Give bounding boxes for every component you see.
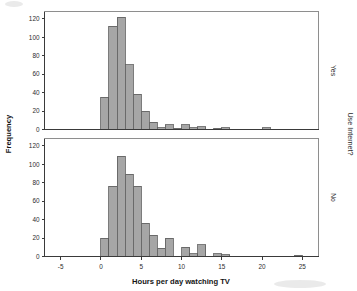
y-tick-label: 40 bbox=[32, 89, 40, 96]
y-tick-label: 80 bbox=[32, 52, 40, 59]
y-tick-label: 80 bbox=[32, 179, 40, 186]
histogram-bar bbox=[117, 17, 125, 129]
x-tick-label: 15 bbox=[218, 263, 226, 270]
histogram-bar bbox=[101, 97, 109, 129]
histogram-bar bbox=[182, 125, 190, 130]
y-tick-label: 40 bbox=[32, 216, 40, 223]
panel-yes: 020406080100120 Yes bbox=[29, 12, 337, 133]
y-axis-title: Frequency bbox=[4, 114, 13, 153]
y-tick-label: 0 bbox=[36, 126, 40, 133]
histogram-bar bbox=[125, 65, 133, 130]
y-tick-label: 0 bbox=[36, 253, 40, 260]
histogram-bar bbox=[109, 186, 117, 256]
histogram-bar bbox=[133, 94, 141, 129]
x-axis-title: Hours per day watching TV bbox=[132, 277, 231, 286]
x-tick-label: -5 bbox=[58, 263, 64, 270]
histogram-bar bbox=[117, 156, 125, 256]
x-tick-label: 25 bbox=[299, 263, 307, 270]
histogram-bar bbox=[149, 235, 157, 256]
histogram-bar bbox=[198, 245, 206, 257]
panel-label-no: No bbox=[330, 193, 337, 202]
histogram-figure: 020406080100120 Yes 020406080100120 -505… bbox=[0, 0, 357, 291]
histogram-bar bbox=[165, 238, 173, 256]
histogram-bar bbox=[125, 174, 133, 256]
panel-no-frame bbox=[45, 139, 319, 257]
histogram-bar bbox=[149, 122, 157, 129]
y-tick-label: 120 bbox=[29, 15, 40, 22]
scan-artifact bbox=[274, 280, 326, 288]
x-tick-label: 5 bbox=[139, 263, 143, 270]
histogram-bar bbox=[141, 111, 149, 129]
histogram-bar bbox=[109, 26, 117, 129]
y-tick-label: 100 bbox=[29, 34, 40, 41]
histogram-bar bbox=[182, 247, 190, 256]
y-tick-label: 100 bbox=[29, 161, 40, 168]
strip-title: Use Internet? bbox=[346, 112, 355, 155]
panel-yes-frame bbox=[45, 12, 319, 130]
y-tick-label: 20 bbox=[32, 234, 40, 241]
histogram-bar bbox=[165, 125, 173, 130]
chart-svg: 020406080100120 Yes 020406080100120 -505… bbox=[0, 0, 357, 291]
y-tick-label: 60 bbox=[32, 70, 40, 77]
y-tick-label: 20 bbox=[32, 107, 40, 114]
scan-artifact bbox=[5, 1, 23, 7]
histogram-bar bbox=[141, 223, 149, 256]
histogram-bar bbox=[133, 186, 141, 256]
histogram-bar bbox=[157, 248, 165, 256]
histogram-bar bbox=[101, 238, 109, 256]
y-tick-label: 120 bbox=[29, 142, 40, 149]
x-tick-label: 10 bbox=[178, 263, 186, 270]
panel-label-yes: Yes bbox=[330, 65, 337, 77]
y-tick-label: 60 bbox=[32, 197, 40, 204]
panel-no: 020406080100120 -50510152025 No bbox=[29, 139, 337, 271]
x-tick-label: 20 bbox=[259, 263, 267, 270]
x-tick-label: 0 bbox=[99, 263, 103, 270]
